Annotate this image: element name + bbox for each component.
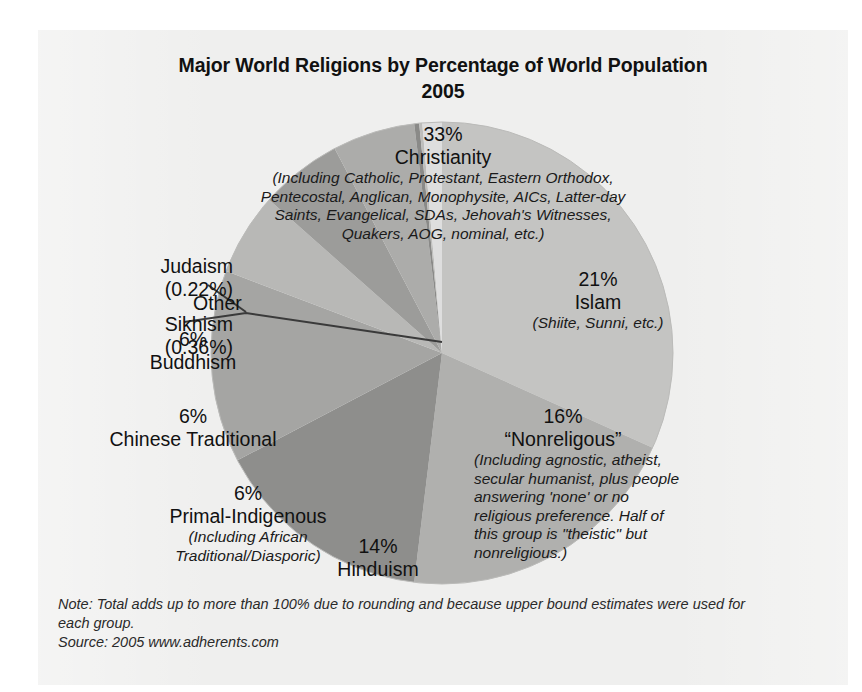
label-chinese-traditional: 6% Chinese Traditional [93, 405, 293, 451]
christianity-name: Christianity [253, 146, 633, 169]
christianity-detail: (Including Catholic, Protestant, Eastern… [253, 169, 633, 243]
primal-name: Primal-Indigenous [148, 505, 348, 528]
nonreligious-percent: 16% [438, 405, 688, 428]
label-islam: 21% Islam (Shiite, Sunni, etc.) [483, 268, 713, 333]
page-canvas: Major World Religions by Percentage of W… [0, 0, 862, 692]
nonreligious-name: “Nonreligous” [438, 428, 688, 451]
sikhism-percent: (0.36%) [48, 336, 233, 359]
label-primal-indigenous: 6% Primal-Indigenous (Including African … [148, 482, 348, 565]
chart-panel: Major World Religions by Percentage of W… [38, 30, 848, 685]
chinese-name: Chinese Traditional [93, 428, 293, 451]
label-judaism: Judaism (0.22%) [48, 255, 233, 301]
primal-detail: (Including African Traditional/Diasporic… [148, 528, 348, 565]
judaism-name: Judaism [48, 255, 233, 278]
chart-footnote: Note: Total adds up to more than 100% du… [58, 595, 833, 652]
label-christianity: 33% Christianity (Including Catholic, Pr… [253, 123, 633, 243]
islam-detail: (Shiite, Sunni, etc.) [483, 314, 713, 333]
sikhism-name: Sikhism [48, 313, 233, 336]
footnote-source: Source: 2005 www.adherents.com [58, 633, 833, 652]
footnote-note-line2: each group. [58, 614, 833, 633]
chinese-percent: 6% [93, 405, 293, 428]
islam-name: Islam [483, 291, 713, 314]
pie-chart-stage: 33% Christianity (Including Catholic, Pr… [38, 30, 848, 685]
primal-percent: 6% [148, 482, 348, 505]
nonreligious-detail: (Including agnostic, atheist, secular hu… [438, 451, 688, 562]
judaism-percent: (0.22%) [48, 278, 233, 301]
footnote-note-line1: Note: Total adds up to more than 100% du… [58, 595, 833, 614]
label-nonreligious: 16% “Nonreligous” (Including agnostic, a… [438, 405, 688, 562]
islam-percent: 21% [483, 268, 713, 291]
label-sikhism: Sikhism (0.36%) [48, 313, 233, 359]
christianity-percent: 33% [253, 123, 633, 146]
